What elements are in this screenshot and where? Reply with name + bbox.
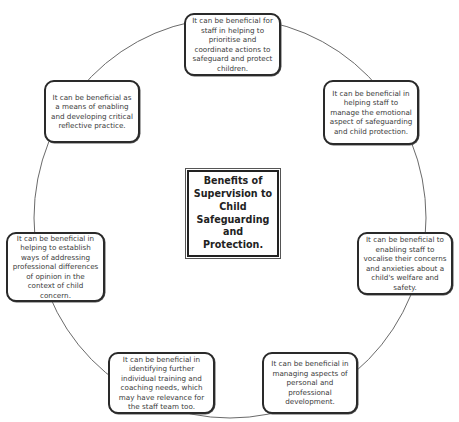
node-bottom-left-text: It can be beneficial in identifying furt… [114,355,209,412]
node-top-right-text: It can be beneficial in helping staff to… [329,89,413,137]
center-title-box: Benefits of Supervision to Child Safegua… [187,170,279,257]
node-right: It can be beneficial to enabling staff t… [357,232,453,295]
node-top-text: It can be beneficial for staff in helpin… [190,16,275,73]
node-bottom-right-text: It can be beneficial in managing aspects… [268,359,352,407]
node-top-right: It can be beneficial in helping staff to… [323,80,419,145]
node-left-text: It can be beneficial in helping to estab… [12,234,99,301]
node-right-text: It can be beneficial to enabling staff t… [363,235,447,292]
node-top: It can be beneficial for staff in helpin… [184,13,281,76]
node-bottom-right: It can be beneficial in managing aspects… [262,352,358,414]
node-bottom-left: It can be beneficial in identifying furt… [108,352,215,414]
node-top-left: It can be beneficial as a means of enabl… [44,80,140,143]
node-top-left-text: It can be beneficial as a means of enabl… [50,93,134,131]
node-left: It can be beneficial in helping to estab… [6,232,105,302]
center-title: Benefits of Supervision to Child Safegua… [192,175,274,253]
